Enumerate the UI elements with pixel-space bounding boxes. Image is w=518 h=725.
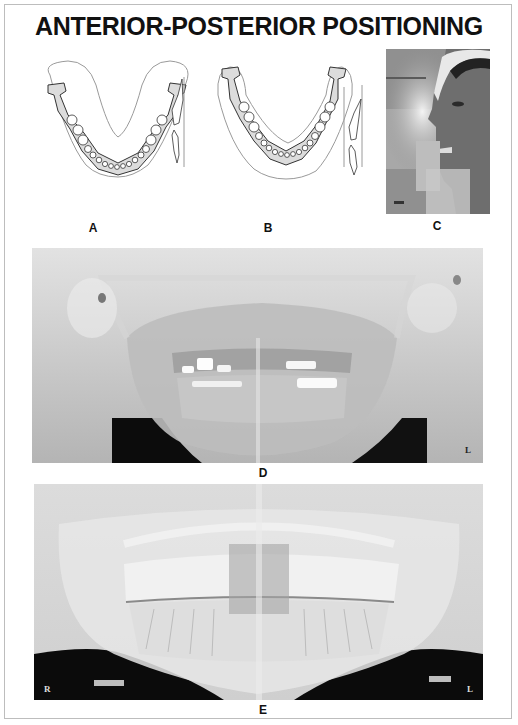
page-title: ANTERIOR-POSTERIOR POSITIONING	[0, 12, 518, 41]
panel-label-e: E	[259, 703, 267, 717]
side-marker-left-d: L	[465, 445, 471, 455]
panel-label-c: C	[433, 219, 442, 233]
side-marker-right-e: R	[44, 684, 51, 694]
panel-label-d: D	[259, 466, 268, 480]
panel-label-a: A	[89, 221, 98, 235]
patient-positioning-photo	[386, 49, 490, 214]
side-marker-left-e: L	[467, 684, 473, 694]
panel-label-b: B	[264, 221, 273, 235]
panoramic-radiograph-e: R L	[34, 484, 483, 700]
mandible-diagram-b	[208, 55, 368, 180]
panoramic-radiograph-d: L	[32, 248, 483, 463]
mandible-diagram-a	[38, 55, 198, 180]
